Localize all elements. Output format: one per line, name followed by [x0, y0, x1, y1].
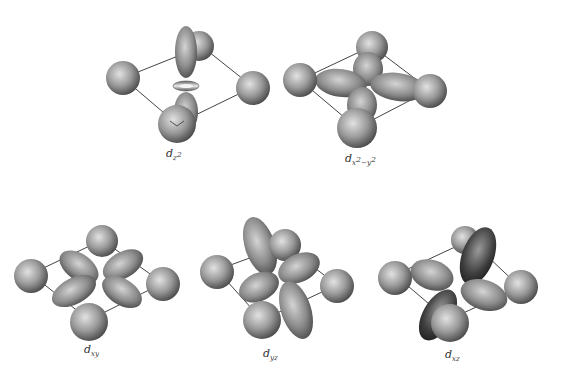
ligand-sphere-left [200, 255, 234, 289]
ligand-sphere-left [283, 63, 317, 97]
ligand-sphere-top [86, 225, 118, 257]
lobe-lower-front [272, 277, 319, 343]
label-dxz: dxz [445, 348, 460, 363]
lobe-left [406, 254, 457, 296]
ligand-sphere-right [504, 270, 538, 304]
label-dyz: dyz [263, 347, 278, 362]
panel-dx2-y2 [283, 31, 447, 148]
panel-dz2 [106, 26, 270, 143]
panel-dxy [14, 225, 180, 341]
panel-dyz [200, 213, 354, 343]
ligand-sphere-front [158, 105, 196, 143]
label-dxy: dxy [84, 343, 99, 358]
ligand-sphere-front [243, 301, 281, 339]
ligand-sphere-left [14, 259, 48, 293]
ligand-sphere-right [146, 267, 180, 301]
d-orbitals-figure [0, 0, 563, 379]
ligand-sphere-right [320, 269, 354, 303]
ligand-sphere-left [378, 261, 412, 295]
panel-dxz [378, 222, 538, 346]
ligand-sphere-right [413, 74, 447, 108]
ligand-sphere-front [70, 303, 108, 341]
ligand-sphere-front [431, 304, 469, 342]
label-dz2: dz2 [166, 147, 182, 162]
ligand-sphere-right [236, 71, 270, 105]
label-dx2-y2: dx2−y2 [345, 152, 376, 167]
ligand-sphere-front [337, 108, 377, 148]
ligand-sphere-left [106, 61, 140, 95]
lobe-top [175, 26, 197, 78]
